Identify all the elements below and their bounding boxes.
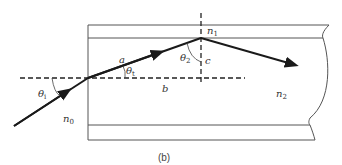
arc-theta-t <box>123 66 125 78</box>
label-a: a <box>119 54 125 65</box>
label-b: b <box>162 83 168 94</box>
label-theta-2: θ2 <box>180 52 191 65</box>
light-rays <box>14 38 292 126</box>
label-theta-t: θt <box>126 65 135 78</box>
reflected-ray <box>201 38 292 64</box>
label-n0: n0 <box>63 113 74 126</box>
label-n1: n1 <box>207 25 218 38</box>
break-line <box>309 25 329 140</box>
arc-theta-i <box>52 78 60 96</box>
label-n2: n2 <box>276 88 287 101</box>
optical-fiber-ray-diagram: θi θt θ2 a b c n0 n1 n2 (b) <box>0 0 342 165</box>
figure-caption: (b) <box>158 152 170 163</box>
label-theta-i: θi <box>38 88 47 101</box>
label-c: c <box>205 55 211 66</box>
fiber-outline <box>88 25 329 140</box>
